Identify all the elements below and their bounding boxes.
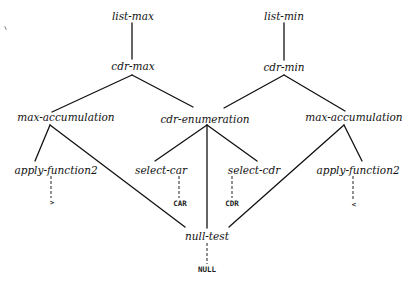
edge-max-acc-right-apply-function2-right — [344, 125, 362, 161]
leaf-less-than: < — [352, 201, 357, 209]
leaf-cdr: CDR — [225, 200, 239, 208]
edge-cdr-max-cdr-enumeration — [132, 75, 193, 107]
edge-cdr-enumeration-select-cdr — [207, 125, 257, 161]
dependency-tree-diagram: list-max list-min cdr-max cdr-min max-ac… — [0, 0, 406, 282]
node-cdr-enumeration: cdr-enumeration — [160, 114, 249, 125]
edge-max-acc-left-null-test — [50, 125, 185, 227]
edge-cdr-max-max-accumulation-left — [52, 75, 132, 112]
node-cdr-max: cdr-max — [111, 61, 154, 72]
node-max-accumulation-right: max-accumulation — [305, 112, 402, 123]
edge-cdr-min-max-accumulation-right — [284, 75, 345, 111]
node-cdr-min: cdr-min — [263, 62, 304, 73]
node-select-cdr: select-cdr — [228, 165, 280, 176]
leaf-greater-than: > — [50, 199, 55, 207]
node-max-accumulation-left: max-accumulation — [17, 112, 114, 123]
edge-cdr-enumeration-select-car — [155, 125, 207, 161]
node-list-min: list-min — [264, 11, 304, 22]
node-select-car: select-car — [135, 165, 187, 176]
leaf-car: CAR — [173, 200, 187, 208]
node-apply-function2-left: apply-function2 — [14, 165, 97, 176]
edge-max-acc-left-apply-function2-left — [35, 125, 50, 161]
node-null-test: null-test — [185, 231, 229, 242]
leaf-null: NULL — [198, 266, 216, 274]
edge-max-acc-right-null-test — [229, 125, 344, 227]
node-list-max: list-max — [112, 11, 154, 22]
node-apply-function2-right: apply-function2 — [316, 165, 399, 176]
edge-cdr-min-cdr-enumeration — [224, 75, 284, 108]
